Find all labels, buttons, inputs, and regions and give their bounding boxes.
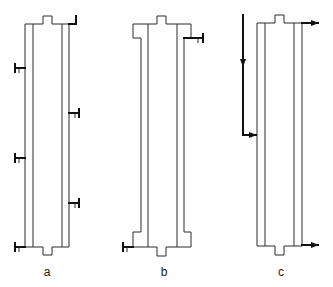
- inlet-arrow-right-icon: [243, 62, 256, 135]
- panel-c: c: [243, 15, 318, 279]
- panel-label-c: c: [278, 265, 284, 279]
- outer-jacket: [133, 16, 191, 256]
- valve-icon: [15, 64, 25, 73]
- valve-icon: [69, 199, 79, 208]
- column-diagram: a b c: [0, 0, 333, 287]
- valve-icon: [184, 34, 203, 43]
- outer-jacket: [257, 15, 302, 255]
- top-outlet-bracket: [69, 16, 76, 24]
- valve-icon: [69, 109, 79, 118]
- valve-icon: [123, 243, 133, 252]
- panel-label-a: a: [44, 265, 51, 279]
- panel-a: a: [15, 16, 79, 279]
- valve-icon: [15, 154, 25, 163]
- panel-label-b: b: [161, 265, 168, 279]
- valve-icon: [15, 243, 25, 252]
- panel-b: b: [123, 16, 203, 279]
